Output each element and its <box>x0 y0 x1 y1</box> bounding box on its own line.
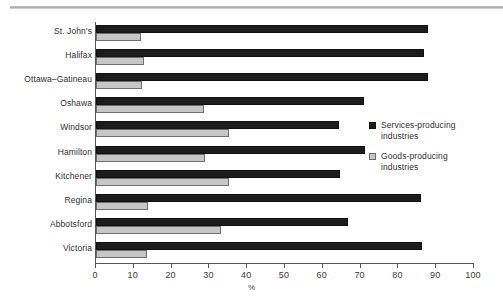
legend-label-goods-line2: industries <box>381 162 501 173</box>
bar-services-producing <box>96 242 422 250</box>
x-axis-tick-label: 50 <box>264 270 304 280</box>
y-axis-category-label: Regina <box>0 195 92 205</box>
y-axis-category-label: Abbotsford <box>0 219 92 229</box>
legend-label-services-line2: industries <box>381 131 501 142</box>
bar-services-producing <box>96 170 340 178</box>
x-axis-tick-label: 70 <box>340 270 380 280</box>
x-axis-tick-label: 90 <box>415 270 455 280</box>
x-axis-tick <box>322 264 323 268</box>
y-axis-category-label: St. John's <box>0 26 92 36</box>
chart-legend: Services-producing industries Goods-prod… <box>369 120 501 182</box>
bar-services-producing <box>96 73 428 81</box>
y-axis-category-label: Oshawa <box>0 98 92 108</box>
x-axis-tick <box>95 264 96 268</box>
bar-group: Abbotsford <box>0 215 503 239</box>
x-axis-tick <box>246 264 247 268</box>
x-axis-tick <box>473 264 474 268</box>
chart-figure: St. John'sHalifaxOttawa–GatineauOshawaWi… <box>0 0 503 303</box>
y-axis-category-label: Windsor <box>0 122 92 132</box>
y-axis-category-label: Halifax <box>0 50 92 60</box>
bar-goods-producing <box>96 33 141 41</box>
bar-services-producing <box>96 49 424 57</box>
x-axis-tick-label: 20 <box>151 270 191 280</box>
x-axis-title: % <box>0 283 503 292</box>
bar-group: St. John's <box>0 22 503 46</box>
bar-goods-producing <box>96 178 229 186</box>
x-axis-tick-label: 0 <box>75 270 115 280</box>
bar-goods-producing <box>96 154 205 162</box>
bar-goods-producing <box>96 81 142 89</box>
x-axis-tick-label: 30 <box>188 270 228 280</box>
bar-goods-producing <box>96 105 204 113</box>
x-axis-tick-label: 10 <box>113 270 153 280</box>
bar-services-producing <box>96 25 428 33</box>
bar-services-producing <box>96 97 364 105</box>
y-axis-category-label: Kitchener <box>0 171 92 181</box>
x-axis-tick <box>435 264 436 268</box>
bar-group: Regina <box>0 191 503 215</box>
x-axis-tick <box>284 264 285 268</box>
y-axis-category-label: Hamilton <box>0 147 92 157</box>
bar-goods-producing <box>96 129 229 137</box>
legend-entry-goods[interactable]: Goods-producing industries <box>369 151 501 173</box>
x-axis-tick <box>133 264 134 268</box>
x-axis-tick <box>397 264 398 268</box>
bar-services-producing <box>96 218 348 226</box>
x-axis-tick-label: 60 <box>302 270 342 280</box>
x-axis-tick <box>208 264 209 268</box>
bar-goods-producing <box>96 226 221 234</box>
x-axis-tick-label: 40 <box>226 270 266 280</box>
bar-services-producing <box>96 121 339 129</box>
light-square-icon <box>369 153 376 160</box>
y-axis-category-label: Ottawa–Gatineau <box>0 74 92 84</box>
bar-group: Halifax <box>0 46 503 70</box>
x-axis-tick-label: 100 <box>453 270 493 280</box>
legend-entry-services[interactable]: Services-producing industries <box>369 120 501 142</box>
bar-goods-producing <box>96 202 148 210</box>
bar-group: Ottawa–Gatineau <box>0 70 503 94</box>
bar-goods-producing <box>96 250 147 258</box>
x-axis-tick-label: 80 <box>377 270 417 280</box>
x-axis-tick <box>171 264 172 268</box>
x-axis-tick <box>360 264 361 268</box>
legend-label-goods-line1: Goods-producing <box>381 151 501 162</box>
bar-group: Victoria <box>0 239 503 263</box>
bar-goods-producing <box>96 57 144 65</box>
dark-square-icon <box>369 122 376 129</box>
legend-label-services-line1: Services-producing <box>381 120 501 131</box>
bar-services-producing <box>96 194 421 202</box>
plot-area: St. John'sHalifaxOttawa–GatineauOshawaWi… <box>0 0 503 303</box>
bar-group: Oshawa <box>0 94 503 118</box>
y-axis-category-label: Victoria <box>0 243 92 253</box>
bar-services-producing <box>96 146 365 154</box>
